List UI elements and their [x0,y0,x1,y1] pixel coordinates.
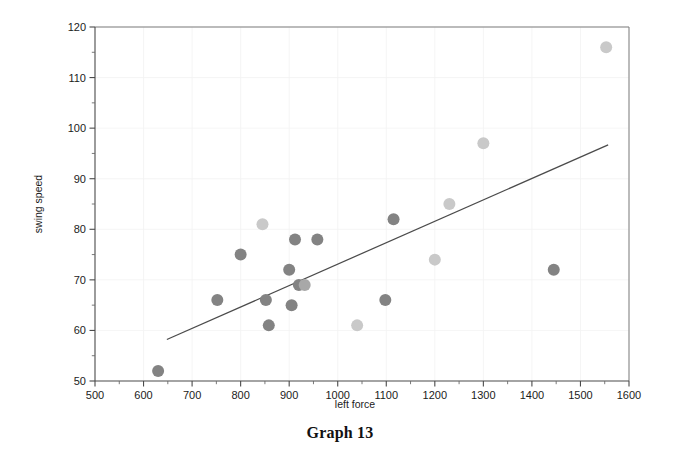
x-tick-label: 1200 [423,389,447,401]
data-point [289,233,301,245]
data-point [283,264,295,276]
y-tick-label: 90 [74,173,86,185]
y-tick-label: 100 [68,122,86,134]
x-tick-label: 1600 [617,389,641,401]
figure-caption: Graph 13 [0,424,680,442]
data-point [388,213,400,225]
data-point [548,264,560,276]
y-tick-label: 70 [74,274,86,286]
x-axis-title: left force [335,398,375,410]
data-point [443,198,455,210]
figure-page: 5006007008009001000110012001300140015001… [0,0,680,467]
y-axis-title: swing speed [32,175,44,234]
data-point [260,294,272,306]
x-tick-label: 900 [280,389,298,401]
y-tick-label: 80 [74,223,86,235]
x-tick-label: 1100 [374,389,398,401]
x-tick-label: 1400 [520,389,544,401]
data-point [351,319,363,331]
y-tick-label: 60 [74,324,86,336]
data-point [477,137,489,149]
x-tick-label: 700 [183,389,201,401]
trend-line [167,145,608,340]
scatter-plot-figure: 5006007008009001000110012001300140015001… [0,0,680,420]
data-points [152,41,612,377]
data-point [429,254,441,266]
y-tick-label: 110 [68,72,86,84]
regression-line [167,145,608,340]
data-point [286,299,298,311]
x-tick-label: 500 [86,389,104,401]
scatter-plot-svg: 5006007008009001000110012001300140015001… [0,0,680,420]
x-tick-label: 800 [231,389,249,401]
data-point [211,294,223,306]
data-point [235,249,247,261]
data-point [263,319,275,331]
data-point [152,365,164,377]
x-tick-label: 1500 [568,389,592,401]
x-tick-label: 1300 [471,389,495,401]
data-point [299,279,311,291]
data-point [256,218,268,230]
x-axis-ticks [95,381,629,387]
data-point [379,294,391,306]
data-point [311,233,323,245]
data-point [600,41,612,53]
x-tick-label: 600 [134,389,152,401]
y-axis-tick-labels: 5060708090100110120 [68,21,86,387]
y-tick-label: 120 [68,21,86,33]
y-tick-label: 50 [74,375,86,387]
y-axis-ticks [90,27,96,381]
